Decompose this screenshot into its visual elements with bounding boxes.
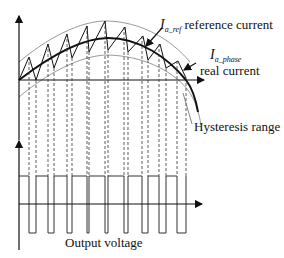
hysteresis-leader	[183, 93, 192, 124]
reference-current-label: Ia_ref reference current	[160, 18, 273, 34]
phase-leader-arrow	[184, 63, 196, 70]
ref-subscript: a_ref	[165, 25, 182, 34]
voltage-plot	[19, 141, 202, 250]
hysteresis-range-label: Hysteresis range	[194, 120, 280, 133]
ref-text: reference current	[185, 17, 273, 32]
phase-symbol-label: Ia_phase	[210, 48, 241, 64]
output-voltage-label: Output voltage	[65, 236, 143, 249]
real-current-label: real current	[200, 64, 260, 77]
current-plot	[19, 16, 204, 140]
